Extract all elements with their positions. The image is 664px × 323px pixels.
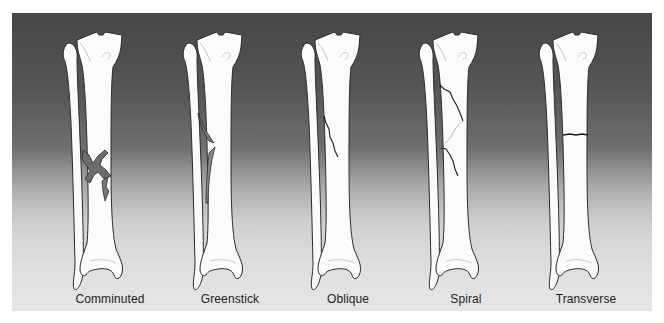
figure-spiral: Spiral — [406, 13, 526, 311]
comminuted-fracture-bone-icon — [50, 13, 170, 311]
label-transverse: Transverse — [526, 292, 646, 306]
label-greenstick: Greenstick — [170, 292, 290, 306]
label-spiral: Spiral — [406, 292, 526, 306]
fracture-types-illustration: Comminuted Greenstick Oblique — [12, 13, 652, 311]
spiral-fracture-bone-icon — [406, 13, 526, 311]
label-oblique: Oblique — [288, 292, 408, 306]
label-comminuted: Comminuted — [50, 292, 170, 306]
transverse-fracture-bone-icon — [526, 13, 646, 311]
figure-greenstick: Greenstick — [170, 13, 290, 311]
greenstick-fracture-bone-icon — [170, 13, 290, 311]
oblique-fracture-bone-icon — [288, 13, 408, 311]
figure-comminuted: Comminuted — [50, 13, 170, 311]
figure-oblique: Oblique — [288, 13, 408, 311]
figure-transverse: Transverse — [526, 13, 646, 311]
